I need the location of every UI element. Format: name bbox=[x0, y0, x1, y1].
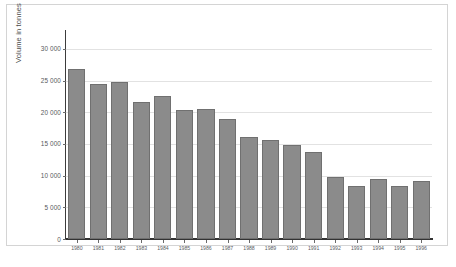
bar bbox=[111, 82, 128, 239]
gridline bbox=[66, 81, 432, 82]
x-tick-label: 1992 bbox=[325, 245, 345, 251]
y-tick-label: 15 000 bbox=[23, 140, 61, 147]
bar bbox=[283, 145, 300, 239]
y-tick-label: 30 000 bbox=[23, 45, 61, 52]
bar bbox=[370, 179, 387, 239]
x-tick-label: 1991 bbox=[304, 245, 324, 251]
bar bbox=[413, 181, 430, 239]
x-tick-mark bbox=[184, 240, 185, 243]
x-tick-mark bbox=[228, 240, 229, 243]
x-tick-mark bbox=[163, 240, 164, 243]
bar bbox=[68, 69, 85, 240]
bar bbox=[240, 137, 257, 239]
chart-figure: Volume in tonnes 05 00010 00015 00020 00… bbox=[0, 0, 456, 267]
x-tick-mark bbox=[292, 240, 293, 243]
y-tick-label: 0 bbox=[23, 236, 61, 243]
x-tick-mark bbox=[421, 240, 422, 243]
y-tick-label: 10 000 bbox=[23, 172, 61, 179]
bar bbox=[348, 186, 365, 239]
x-tick-mark bbox=[141, 240, 142, 243]
bar bbox=[90, 84, 107, 239]
x-tick-label: 1996 bbox=[411, 245, 431, 251]
x-tick-mark bbox=[120, 240, 121, 243]
y-tick-mark bbox=[63, 176, 66, 177]
y-tick-label: 25 000 bbox=[23, 77, 61, 84]
x-tick-label: 1987 bbox=[218, 245, 238, 251]
bar bbox=[262, 140, 279, 240]
x-tick-label: 1981 bbox=[88, 245, 108, 251]
x-tick-label: 1982 bbox=[110, 245, 130, 251]
x-tick-mark bbox=[314, 240, 315, 243]
x-tick-label: 1985 bbox=[174, 245, 194, 251]
x-tick-label: 1989 bbox=[261, 245, 281, 251]
x-tick-mark bbox=[400, 240, 401, 243]
bar bbox=[154, 96, 171, 239]
bar bbox=[133, 102, 150, 239]
x-tick-mark bbox=[378, 240, 379, 243]
x-tick-label: 1993 bbox=[347, 245, 367, 251]
x-tick-label: 1990 bbox=[282, 245, 302, 251]
y-tick-mark bbox=[63, 144, 66, 145]
y-tick-label: 5 000 bbox=[23, 204, 61, 211]
bar bbox=[391, 186, 408, 239]
gridline bbox=[66, 49, 432, 50]
bar bbox=[197, 109, 214, 239]
bar bbox=[305, 152, 322, 239]
x-tick-mark bbox=[357, 240, 358, 243]
y-tick-mark bbox=[63, 207, 66, 208]
x-tick-label: 1986 bbox=[196, 245, 216, 251]
x-tick-mark bbox=[271, 240, 272, 243]
x-tick-mark bbox=[335, 240, 336, 243]
plot-area bbox=[66, 33, 432, 239]
y-tick-mark bbox=[63, 81, 66, 82]
bar bbox=[176, 110, 193, 239]
y-tick-mark bbox=[63, 112, 66, 113]
x-tick-label: 1984 bbox=[153, 245, 173, 251]
x-tick-label: 1988 bbox=[239, 245, 259, 251]
y-tick-mark bbox=[63, 239, 66, 240]
y-tick-label: 20 000 bbox=[23, 109, 61, 116]
x-tick-mark bbox=[77, 240, 78, 243]
x-tick-mark bbox=[206, 240, 207, 243]
x-tick-mark bbox=[249, 240, 250, 243]
x-tick-label: 1983 bbox=[131, 245, 151, 251]
bar bbox=[327, 177, 344, 239]
x-tick-label: 1980 bbox=[67, 245, 87, 251]
bar bbox=[219, 119, 236, 239]
x-tick-mark bbox=[98, 240, 99, 243]
x-tick-label: 1995 bbox=[390, 245, 410, 251]
y-tick-mark bbox=[63, 49, 66, 50]
x-tick-label: 1994 bbox=[368, 245, 388, 251]
